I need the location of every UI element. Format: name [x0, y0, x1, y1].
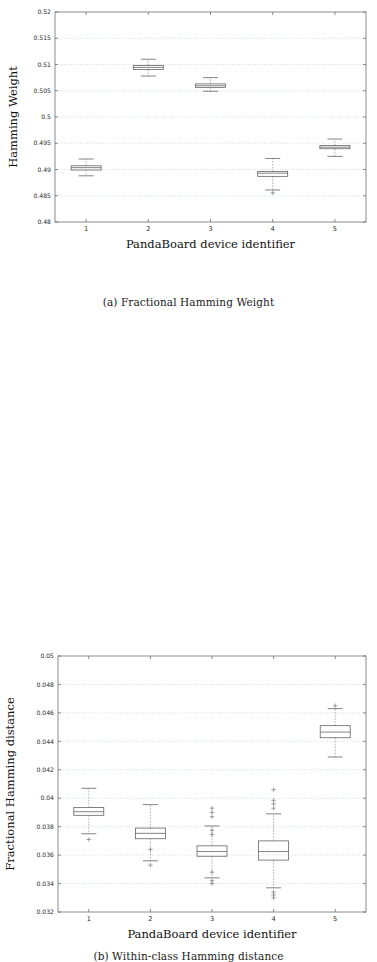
figure-b-caption: (b) Within-class Hamming distance — [0, 950, 377, 962]
boxplot-group — [197, 806, 227, 886]
y-tick-label: 0.49 — [37, 166, 51, 173]
x-tick-label: 3 — [210, 915, 214, 923]
figure-b: 0.0320.0340.0360.0380.040.0420.0440.0460… — [0, 322, 377, 654]
x-tick-label: 1 — [87, 915, 91, 923]
boxplot-group — [196, 78, 226, 92]
figure-a-caption: (a) Fractional Hamming Weight — [0, 296, 377, 308]
y-tick-label: 0.485 — [34, 192, 52, 199]
x-tick-label: 4 — [271, 225, 275, 233]
figure-a: 0.480.4850.490.4950.50.5050.510.5150.521… — [0, 0, 377, 322]
plot-area-a: 0.480.4850.490.4950.50.5050.510.5150.521… — [0, 0, 377, 290]
x-tick-label: 1 — [84, 225, 88, 233]
y-tick-label: 0.5 — [41, 113, 51, 120]
x-tick-label: 2 — [146, 225, 150, 233]
x-tick-label: 5 — [333, 225, 337, 233]
y-tick-label: 0.515 — [34, 34, 52, 41]
y-tick-label: 0.044 — [37, 738, 55, 745]
x-tick-label: 2 — [148, 915, 152, 923]
boxplot-group — [259, 787, 289, 900]
boxplot-group — [320, 703, 350, 757]
plot-area-b: 0.0320.0340.0360.0380.040.0420.0440.0460… — [0, 644, 377, 944]
y-axis-title: Fractional Hamming distance — [3, 697, 17, 871]
box-iqr — [258, 172, 288, 177]
y-tick-label: 0.51 — [37, 61, 51, 68]
boxplot-group — [320, 139, 350, 156]
y-tick-label: 0.05 — [40, 652, 54, 659]
x-axis-title: PandaBoard device identifier — [126, 237, 296, 251]
x-axis-title: PandaBoard device identifier — [127, 927, 297, 941]
boxplot-group — [135, 805, 165, 868]
boxplot-group — [71, 159, 101, 176]
boxplot-chart-a: 0.480.4850.490.4950.50.5050.510.5150.521… — [0, 0, 377, 290]
y-tick-label: 0.52 — [37, 8, 51, 15]
boxplot-group — [133, 59, 163, 76]
boxplot-chart-b: 0.0320.0340.0360.0380.040.0420.0440.0460… — [0, 644, 377, 944]
x-tick-label: 4 — [271, 915, 275, 923]
box-iqr — [259, 841, 289, 860]
y-tick-label: 0.032 — [37, 908, 55, 915]
y-axis-title: Hamming Weight — [6, 66, 20, 168]
x-tick-label: 5 — [333, 915, 337, 923]
box-iqr — [197, 846, 227, 856]
y-tick-label: 0.04 — [40, 794, 54, 801]
y-tick-label: 0.034 — [37, 880, 55, 887]
y-tick-label: 0.505 — [34, 87, 52, 94]
boxplot-group — [258, 158, 288, 195]
y-tick-label: 0.048 — [37, 681, 55, 688]
y-tick-label: 0.495 — [34, 139, 52, 146]
y-tick-label: 0.038 — [37, 823, 55, 830]
boxplot-group — [74, 788, 104, 842]
x-tick-label: 3 — [208, 225, 212, 233]
y-tick-label: 0.046 — [37, 709, 55, 716]
y-tick-label: 0.036 — [37, 851, 55, 858]
y-tick-label: 0.48 — [37, 218, 51, 225]
y-tick-label: 0.042 — [37, 766, 55, 773]
